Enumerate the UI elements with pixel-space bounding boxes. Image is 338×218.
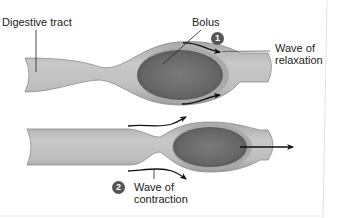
- step-2-label-line2: contraction: [134, 193, 188, 205]
- step-2-label-line1: Wave of: [134, 181, 174, 193]
- peristalsis-diagram: Digestive tract Bolus 1 Wave of relaxati…: [0, 0, 338, 218]
- contraction-arrow-upper: [128, 117, 186, 126]
- digestive-tract-label: Digestive tract: [2, 16, 72, 28]
- step-1-label-line2: relaxation: [275, 54, 323, 66]
- page-edge-line: [323, 0, 327, 218]
- bolus: [173, 127, 247, 167]
- relaxation-leader-line: [222, 51, 270, 52]
- contraction-arrow-lower: [128, 169, 186, 179]
- step-2-badge: 2: [112, 181, 125, 194]
- step-1-label-line1: Wave of: [275, 42, 315, 54]
- bottom-tube: [27, 122, 273, 172]
- bolus-label: Bolus: [192, 16, 220, 28]
- bolus: [137, 50, 223, 100]
- step-1-badge: 1: [211, 32, 224, 45]
